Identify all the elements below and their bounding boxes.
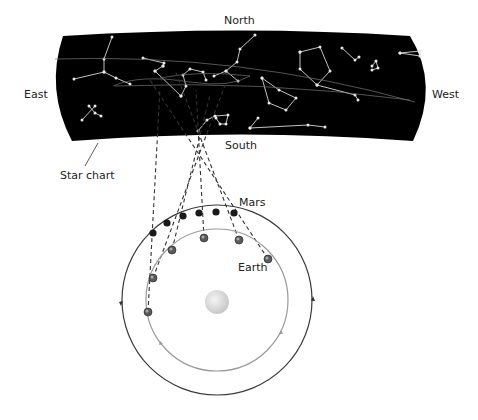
- star: [371, 69, 374, 72]
- star: [358, 56, 361, 59]
- label-mars: Mars: [239, 197, 266, 208]
- star: [81, 119, 84, 122]
- star: [227, 114, 230, 117]
- label-earth: Earth: [238, 262, 268, 273]
- star: [419, 50, 422, 53]
- mars-position-dot: [163, 219, 170, 226]
- star: [73, 78, 76, 81]
- star: [329, 70, 332, 73]
- label-west: West: [432, 89, 459, 100]
- earth-highlight: [266, 257, 269, 260]
- mars-position-dot: [149, 229, 156, 236]
- star: [419, 55, 422, 58]
- star: [261, 77, 264, 80]
- earth-highlight: [151, 276, 154, 279]
- star: [357, 99, 360, 102]
- star: [377, 67, 380, 70]
- label-east: East: [24, 89, 48, 100]
- label-north: North: [224, 15, 255, 26]
- mars-position-dot: [230, 209, 237, 216]
- star: [88, 105, 91, 108]
- star: [299, 68, 302, 71]
- star: [239, 48, 242, 51]
- star: [205, 79, 208, 82]
- earth-highlight: [202, 236, 205, 239]
- star: [189, 68, 192, 71]
- mars-position-dot: [179, 212, 186, 219]
- star: [399, 52, 402, 55]
- star: [316, 84, 319, 87]
- star: [162, 65, 165, 68]
- star: [319, 46, 322, 49]
- earth-highlight: [146, 310, 149, 313]
- star: [249, 127, 252, 130]
- label-star-chart: Star chart: [60, 170, 115, 181]
- mars-position-dot: [195, 209, 202, 216]
- star: [202, 71, 205, 74]
- star: [354, 59, 357, 62]
- star: [341, 47, 344, 50]
- star: [285, 109, 288, 112]
- star: [307, 124, 310, 127]
- star: [103, 71, 106, 74]
- star: [225, 123, 228, 126]
- earth-orbit-arrow-right: [279, 330, 283, 334]
- star: [94, 112, 97, 115]
- star: [163, 62, 166, 65]
- star-chart-leader: [85, 143, 98, 166]
- star: [206, 119, 209, 122]
- star: [154, 70, 157, 73]
- sun: [205, 290, 229, 314]
- star: [268, 102, 271, 105]
- star: [371, 65, 374, 68]
- star: [180, 95, 183, 98]
- star: [111, 36, 114, 39]
- star: [324, 126, 327, 129]
- mars-retrograde-diagram: [0, 0, 478, 420]
- star: [299, 51, 302, 54]
- star: [129, 83, 132, 86]
- earth-highlight: [237, 238, 240, 241]
- star: [257, 117, 260, 120]
- star: [215, 117, 218, 120]
- star: [213, 75, 216, 78]
- earth-highlight: [170, 248, 173, 251]
- star: [115, 77, 118, 80]
- mars-position-dot: [212, 208, 219, 215]
- star: [225, 70, 228, 73]
- star: [254, 34, 257, 37]
- star: [375, 60, 378, 63]
- star: [295, 97, 298, 100]
- star: [236, 61, 239, 64]
- star: [103, 58, 106, 61]
- star: [94, 105, 97, 108]
- star: [219, 123, 222, 126]
- star: [278, 89, 281, 92]
- star: [100, 115, 103, 118]
- label-south: South: [225, 140, 257, 151]
